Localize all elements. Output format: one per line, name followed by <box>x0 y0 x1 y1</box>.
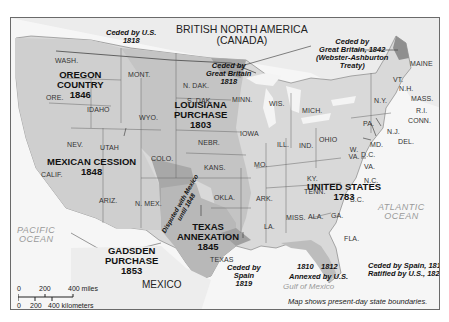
ceded-by-us-1818-note: Ceded by U.S. 1818 <box>106 29 156 45</box>
mexico-label: MEXICO <box>142 280 181 291</box>
state-sc: S.C. <box>350 196 364 203</box>
louisiana-year: 1803 <box>174 120 227 130</box>
ocean-line: OCEAN <box>378 212 425 221</box>
note-line: 1818 <box>206 78 251 86</box>
state-mass: MASS. <box>411 95 433 102</box>
state-ark: ARK. <box>256 195 273 202</box>
state-mich: MICH. <box>302 107 322 114</box>
state-pa: PA. <box>363 120 374 127</box>
scale-km-200: 200 <box>30 302 42 309</box>
state-idaho: IDAHO <box>87 106 110 113</box>
scale-miles-400: 400 miles <box>68 285 98 292</box>
ocean-line: OCEAN <box>17 235 55 244</box>
state-vt: VT. <box>393 76 403 83</box>
gadsden-purchase-label: GADSDEN PURCHASE 1853 <box>105 246 158 276</box>
state-miss: MISS. <box>286 214 306 221</box>
state-del: DEL. <box>398 138 414 145</box>
note-line: 1819 <box>227 280 261 288</box>
note-line: 1818 <box>106 37 156 45</box>
scale-miles-0: 0 <box>17 285 21 292</box>
state-nev: NEV. <box>67 141 83 148</box>
state-va: VA. <box>364 163 375 170</box>
oregon-country-label: OREGON COUNTRY 1846 <box>57 70 104 100</box>
state-conn: CONN. <box>408 117 431 124</box>
annexed-1810-label: 1810 <box>297 263 314 271</box>
state-wva: W. VA. <box>347 146 361 161</box>
state-ndak: N. DAK. <box>183 82 209 89</box>
atlantic-ocean-label: ATLANTIC OCEAN <box>378 203 425 222</box>
ceded-by-spain-1819-note: Ceded by Spain 1819 <box>227 264 261 288</box>
state-calif: CALIF. <box>41 171 63 178</box>
state-ri: R.I. <box>416 107 427 114</box>
scale-miles-200: 200 <box>39 285 51 292</box>
state-nmex: N. MEX. <box>135 200 162 207</box>
state-maine: MAINE <box>410 60 433 67</box>
scale-km-0: 0 <box>17 302 21 309</box>
note-line: Ratified by U.S., 1821 <box>368 270 440 278</box>
state-md: MD. <box>370 141 383 148</box>
state-minn: MINN. <box>232 96 252 103</box>
annexed-by-us-label: Annexed by U.S. <box>289 273 348 281</box>
state-nc: N.C. <box>364 177 378 184</box>
state-ny: N.Y. <box>374 97 387 104</box>
state-tenn: TENN. <box>304 188 326 195</box>
texas-annexation-label: TEXAS ANNEXATION 1845 <box>177 222 239 252</box>
state-mo: MO. <box>254 161 268 168</box>
state-nebr: NEBR. <box>198 139 220 146</box>
state-ky: KY. <box>307 175 318 182</box>
note-line: Treaty) <box>316 62 388 70</box>
state-ohio: OHIO <box>319 136 337 143</box>
state-colo: COLO. <box>151 155 173 162</box>
oregon-year: 1846 <box>57 90 104 100</box>
footnote: Map shows present-day state boundaries. <box>288 298 427 306</box>
state-fla: FLA. <box>344 235 359 242</box>
state-mont: MONT. <box>128 71 150 78</box>
ceded-by-great-britain-1818-note: Ceded by Great Britain 1818 <box>206 62 251 86</box>
texas-year: 1845 <box>177 242 239 252</box>
state-kans: KANS. <box>204 164 226 171</box>
state-la: LA. <box>264 223 275 230</box>
annexed-1812-label: 1812 <box>321 263 338 271</box>
state-ore: ORE. <box>46 94 64 101</box>
state-texas: TEXAS <box>210 256 233 263</box>
map-frame: BRITISH NORTH AMERICA (CANADA) OREGON CO… <box>10 17 440 310</box>
state-wash: WASH. <box>55 57 78 64</box>
florida-cession-note: Ceded by Spain, 1819 Ratified by U.S., 1… <box>368 262 440 278</box>
state-iowa: IOWA <box>240 130 259 137</box>
state-okla: OKLA. <box>214 194 235 201</box>
canada-label: BRITISH NORTH AMERICA (CANADA) <box>176 24 308 46</box>
state-wis: WIS. <box>269 100 285 107</box>
state-nh: N.H. <box>399 85 413 92</box>
louisiana-purchase-label: LOUISIANA PURCHASE 1803 <box>174 100 227 130</box>
state-ill: ILL. <box>277 141 289 148</box>
gadsden-year: 1853 <box>105 266 158 276</box>
ceded-by-great-britain-1842-note: Ceded by Great Britain, 1842 (Webster-As… <box>316 38 388 70</box>
state-ariz: ARIZ. <box>99 197 117 204</box>
state-sdak: S. DAK. <box>187 97 213 104</box>
scale-ruler <box>18 294 88 302</box>
state-wyo: WYO. <box>139 114 158 121</box>
state-utah: UTAH <box>100 144 119 151</box>
scale-km-400: 400 kilometers <box>48 302 94 309</box>
pacific-ocean-label: PACIFIC OCEAN <box>17 226 55 245</box>
state-ala: ALA. <box>308 213 324 220</box>
scale-bar: 0 200 400 miles 0 200 400 kilometers <box>16 285 116 310</box>
gulf-of-mexico-label: Gulf of Mexico <box>283 283 334 291</box>
state-ind: IND. <box>299 142 313 149</box>
state-ga: GA. <box>331 212 343 219</box>
canada-label-line2: (CANADA) <box>176 35 308 46</box>
state-dc: D.C. <box>361 151 375 158</box>
state-nj: N.J. <box>387 128 400 135</box>
